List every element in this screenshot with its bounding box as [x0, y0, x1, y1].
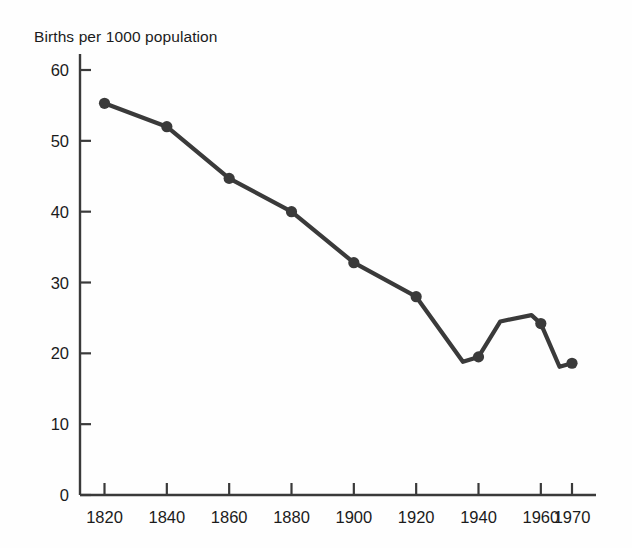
data-line-series	[105, 103, 573, 367]
x-tick-label: 1820	[86, 508, 123, 526]
data-point-marker	[473, 351, 484, 362]
axis-lines	[80, 54, 596, 495]
data-point-marker	[161, 121, 172, 132]
x-tick-label: 1940	[460, 508, 497, 526]
line-chart-plot: 0102030405060 18201840186018801900192019…	[0, 0, 632, 548]
y-tick-label: 50	[51, 132, 69, 150]
x-tick-label: 1840	[148, 508, 185, 526]
y-tick-label: 0	[60, 486, 69, 504]
data-point-marker	[411, 291, 422, 302]
data-point-markers	[99, 98, 578, 369]
x-tick-label: 1880	[273, 508, 310, 526]
y-tick-label: 10	[51, 415, 69, 433]
chart-figure: Births per 1000 population 0102030405060…	[0, 0, 632, 548]
y-tick-label: 60	[51, 61, 69, 79]
data-point-marker	[224, 173, 235, 184]
y-tick-label: 20	[51, 344, 69, 362]
y-axis-ticks: 0102030405060	[51, 61, 91, 504]
x-tick-label: 1970	[554, 508, 591, 526]
x-tick-label: 1860	[211, 508, 248, 526]
y-tick-label: 40	[51, 203, 69, 221]
y-tick-label: 30	[51, 274, 69, 292]
data-point-marker	[348, 257, 359, 268]
data-point-marker	[99, 98, 110, 109]
data-point-marker	[566, 358, 577, 369]
data-point-marker	[286, 206, 297, 217]
x-axis-ticks: 182018401860188019001920194019601970	[86, 483, 590, 526]
x-tick-label: 1900	[335, 508, 372, 526]
data-point-marker	[535, 318, 546, 329]
x-tick-label: 1920	[398, 508, 435, 526]
